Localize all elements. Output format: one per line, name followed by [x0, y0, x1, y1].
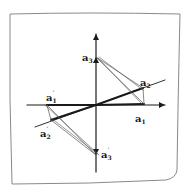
vector-a1 [96, 104, 144, 105]
vector-diagram: a1a2a3a1′a2′a3′ [0, 0, 189, 195]
